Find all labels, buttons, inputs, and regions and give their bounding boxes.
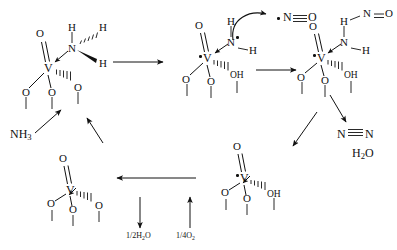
dinitrogen-triple-bond [0,0,397,250]
reaction-mechanism-diagram: O V N H H H O O O O V N H H O O OH N O O… [0,0,397,250]
